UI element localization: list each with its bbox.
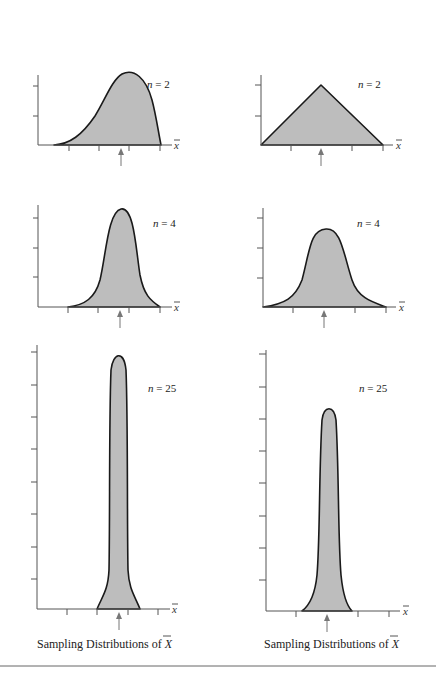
x-axis-label: x [398,301,404,313]
sample-size-label: n = 2 [358,78,381,90]
sample-size-label: n = 4 [357,217,380,229]
distribution-curve [261,85,383,145]
sample-size-label: n = 2 [147,78,170,90]
x-axis-label: x [402,605,408,617]
panel-left-n2: x n = 2 [33,72,180,166]
mean-arrow-icon [117,310,123,328]
caption-left: Sampling Distributions of X [37,637,173,651]
distribution-curve [68,209,160,307]
sample-size-label: n = 25 [148,382,177,394]
sample-size-label: n = 4 [153,217,176,229]
panel-right-n25: x n = 25 [259,350,409,632]
distribution-curve [263,229,386,307]
mean-arrow-icon [321,310,327,328]
sampling-distributions-figure: x n = 2 x n = 2 [0,0,436,675]
mean-arrow-icon [324,614,330,632]
panel-right-n4: x n = 4 [257,208,405,328]
x-axis-label: x [173,139,179,151]
panel-left-n25: x n = 25 [31,345,178,630]
distribution-curve [54,72,161,145]
panel-left-n4: x n = 4 [33,205,180,328]
caption-right: Sampling Distributions of X [264,637,400,651]
x-axis-label: x [173,301,179,313]
distribution-curve [302,409,352,611]
mean-arrow-icon [116,612,122,630]
panel-right-n2: x n = 2 [255,75,402,166]
x-axis-label: x [171,603,177,615]
x-axis-label: x [395,139,401,151]
sample-size-label: n = 25 [359,382,388,394]
distribution-curve [97,356,140,609]
mean-arrow-icon [118,148,124,166]
mean-arrow-icon [318,148,324,166]
